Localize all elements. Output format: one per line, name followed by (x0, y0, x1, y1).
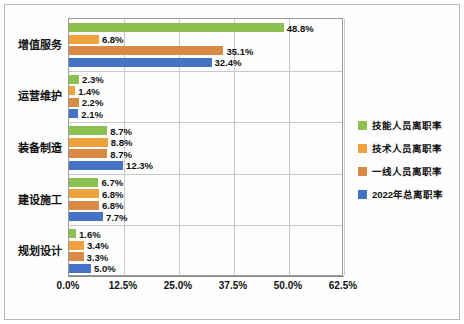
x-axis-line (68, 276, 344, 277)
legend-swatch-icon (358, 167, 367, 176)
bar-value-label: 1.4% (78, 87, 100, 96)
bar (69, 46, 223, 55)
legend-item[interactable]: 技能人员离职率 (358, 118, 454, 132)
bar (69, 35, 99, 44)
bar-value-label: 35.1% (226, 47, 253, 56)
category-label: 建设施工 (8, 191, 62, 207)
bar-value-label: 6.7% (101, 178, 123, 187)
bar (69, 58, 212, 67)
bar (69, 149, 107, 158)
category-separator (69, 225, 342, 226)
bar (69, 212, 103, 221)
bar-value-label: 32.4% (215, 58, 242, 67)
legend-item[interactable]: 技术人员离职率 (358, 141, 454, 155)
bar-value-label: 6.8% (102, 190, 124, 199)
bar (69, 126, 107, 135)
bar-value-label: 2.3% (82, 75, 104, 84)
gridline (344, 19, 345, 275)
bar-value-label: 12.3% (126, 161, 153, 170)
chart-container: 48.8%6.8%35.1%32.4%2.3%1.4%2.2%2.1%8.7%8… (0, 0, 464, 324)
legend-swatch-icon (358, 121, 367, 130)
gridline (289, 19, 290, 275)
category-separator (69, 122, 342, 123)
bar (69, 75, 79, 84)
bar-value-label: 48.8% (287, 24, 314, 33)
bar (69, 201, 99, 210)
bar (69, 98, 79, 107)
bar-value-label: 2.2% (82, 98, 104, 107)
plot-area: 48.8%6.8%35.1%32.4%2.3%1.4%2.2%2.1%8.7%8… (68, 18, 343, 276)
x-tick-label: 25.0% (158, 280, 198, 291)
x-tick-label: 12.5% (103, 280, 143, 291)
bar (69, 264, 91, 273)
x-tick-label: 50.0% (268, 280, 308, 291)
category-separator (69, 174, 342, 175)
bar (69, 109, 78, 118)
x-tick-label: 37.5% (213, 280, 253, 291)
bar (69, 252, 84, 261)
legend-label: 2022年总离职率 (372, 187, 443, 201)
bar (69, 178, 98, 187)
x-tick-label: 62.5% (323, 280, 363, 291)
bar-value-label: 7.7% (106, 213, 128, 222)
bar-value-label: 3.4% (87, 241, 109, 250)
bar (69, 229, 76, 238)
bar-value-label: 8.7% (110, 127, 132, 136)
bar (69, 241, 84, 250)
bar (69, 23, 284, 32)
legend-label: 技能人员离职率 (372, 118, 442, 132)
category-label: 运营维护 (8, 87, 62, 103)
category-label: 规划设计 (8, 242, 62, 258)
legend-label: 一线人员离职率 (372, 164, 442, 178)
bar (69, 189, 99, 198)
legend-swatch-icon (358, 144, 367, 153)
category-label: 装备制造 (8, 139, 62, 155)
category-separator (69, 71, 342, 72)
category-label: 增值服务 (8, 36, 62, 52)
legend-label: 技术人员离职率 (372, 141, 442, 155)
bar-value-label: 8.8% (111, 138, 133, 147)
bar-value-label: 3.3% (87, 253, 109, 262)
bar-value-label: 1.6% (79, 230, 101, 239)
legend-item[interactable]: 2022年总离职率 (358, 187, 454, 201)
bar (69, 161, 123, 170)
legend-swatch-icon (358, 190, 367, 199)
bar (69, 138, 108, 147)
legend-item[interactable]: 一线人员离职率 (358, 164, 454, 178)
bar-value-label: 5.0% (94, 264, 116, 273)
bar-value-label: 6.8% (102, 35, 124, 44)
bar-value-label: 6.8% (102, 201, 124, 210)
bar (69, 86, 75, 95)
bar-value-label: 2.1% (81, 110, 103, 119)
x-tick-label: 0.0% (48, 280, 88, 291)
chart-legend: 技能人员离职率技术人员离职率一线人员离职率2022年总离职率 (358, 118, 454, 210)
bar-value-label: 8.7% (110, 150, 132, 159)
